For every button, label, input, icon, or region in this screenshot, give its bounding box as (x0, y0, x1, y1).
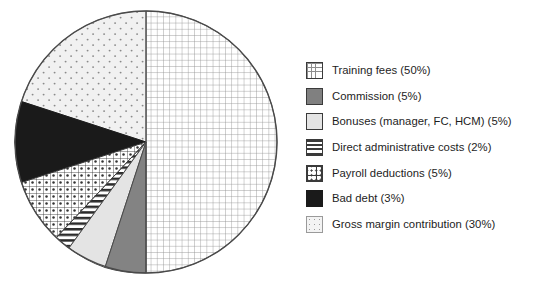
legend-label-direct-administrative-costs: Direct administrative costs (2%) (332, 142, 491, 153)
legend-swatch-gross-margin-contribution (306, 216, 323, 233)
pie-chart-graphic (8, 4, 286, 280)
chart-title (0, 0, 1, 1)
legend-item-bad-debt[interactable]: Bad debt (3%) (306, 186, 542, 212)
legend-swatch-bonuses (306, 113, 323, 130)
legend-item-training-fees[interactable]: Training fees (50%) (306, 58, 542, 84)
legend-label-gross-margin-contribution: Gross margin contribution (30%) (332, 219, 495, 230)
legend-swatch-bad-debt (306, 190, 323, 207)
legend-label-bonuses: Bonuses (manager, FC, HCM) (5%) (332, 116, 512, 127)
legend-item-direct-administrative-costs[interactable]: Direct administrative costs (2%) (306, 135, 542, 161)
pie-slices (15, 11, 277, 273)
legend-item-payroll-deductions[interactable]: Payroll deductions (5%) (306, 160, 542, 186)
legend-swatch-commission (306, 88, 323, 105)
pie-chart-figure: Training fees (50%) Commission (5%) Bonu… (0, 0, 544, 285)
legend-label-commission: Commission (5%) (332, 91, 421, 102)
legend-label-bad-debt: Bad debt (3%) (332, 193, 404, 204)
legend-label-training-fees: Training fees (50%) (332, 65, 431, 76)
legend-swatch-direct-administrative-costs (306, 139, 323, 156)
legend-swatch-training-fees (306, 62, 323, 79)
legend-item-gross-margin-contribution[interactable]: Gross margin contribution (30%) (306, 212, 542, 238)
legend-item-bonuses[interactable]: Bonuses (manager, FC, HCM) (5%) (306, 109, 542, 135)
pie-slice-training-fees[interactable] (146, 11, 277, 273)
legend-item-commission[interactable]: Commission (5%) (306, 84, 542, 110)
legend-swatch-payroll-deductions (306, 165, 323, 182)
chart-legend: Training fees (50%) Commission (5%) Bonu… (306, 58, 542, 237)
legend-label-payroll-deductions: Payroll deductions (5%) (332, 168, 452, 179)
